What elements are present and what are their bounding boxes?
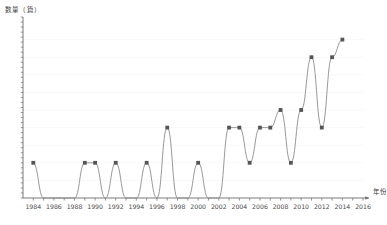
svg-text:2014: 2014 [335, 203, 351, 210]
svg-text:2010: 2010 [293, 203, 309, 210]
y-axis [21, 17, 23, 198]
svg-text:1992: 1992 [108, 203, 124, 210]
svg-text:2006: 2006 [252, 203, 268, 210]
svg-text:2000: 2000 [190, 203, 206, 210]
data-markers [31, 38, 344, 165]
svg-text:1998: 1998 [170, 203, 186, 210]
x-axis [23, 196, 369, 200]
gridlines [23, 40, 363, 181]
svg-text:2012: 2012 [314, 203, 330, 210]
data-line [33, 40, 342, 198]
svg-text:1990: 1990 [87, 203, 103, 210]
svg-text:2002: 2002 [211, 203, 227, 210]
svg-text:2008: 2008 [273, 203, 289, 210]
x-tick-labels: 1984198619881990199219941996199820002002… [25, 203, 371, 210]
svg-text:1988: 1988 [67, 203, 83, 210]
svg-text:1986: 1986 [46, 203, 62, 210]
svg-text:1996: 1996 [149, 203, 165, 210]
svg-text:2016: 2016 [355, 203, 371, 210]
svg-text:2004: 2004 [231, 203, 247, 210]
svg-text:1994: 1994 [128, 203, 144, 210]
svg-text:1984: 1984 [25, 203, 41, 210]
